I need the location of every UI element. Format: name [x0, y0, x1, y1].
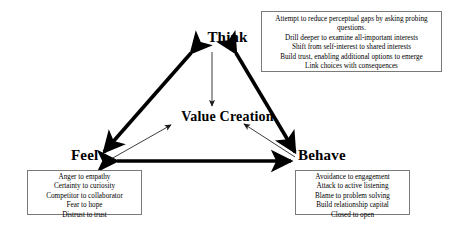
- edge-think-feel: [104, 53, 191, 152]
- callout-box-behave: Avoidance to engagement Attack to active…: [295, 170, 410, 215]
- node-label-behave: Behave: [298, 147, 346, 164]
- callout-line: Drill deeper to examine all-important in…: [266, 34, 437, 43]
- callout-line: Distrust to trust: [32, 211, 137, 220]
- callout-line: Link choices with consequences: [266, 62, 437, 71]
- callout-line: Attack to active listening: [300, 182, 405, 191]
- callout-line: Anger to empathy: [32, 173, 137, 182]
- node-label-value-creation: Value Creation: [0, 108, 455, 125]
- edge-feel-value: [111, 125, 171, 159]
- callout-line: Build trust, enabling additional options…: [266, 53, 437, 62]
- callout-line: Closed to open: [300, 211, 405, 220]
- callout-line: Competitor to collaborator: [32, 192, 137, 201]
- node-label-feel: Feel: [71, 147, 98, 164]
- callout-box-think: Attempt to reduce perceptual gaps by ask…: [261, 11, 442, 72]
- callout-line: Shift from self-interest to shared inter…: [266, 43, 437, 52]
- callout-line: Blame to problem solving: [300, 192, 405, 201]
- callout-line: Avoidance to engagement: [300, 173, 405, 182]
- callout-box-feel: Anger to empathy Certainty to curiosity …: [27, 170, 142, 215]
- diagram-canvas: Think Feel Behave Value Creation Attempt…: [0, 0, 455, 234]
- callout-line: Attempt to reduce perceptual gaps by ask…: [266, 15, 437, 34]
- callout-line: Fear to hope: [32, 201, 137, 210]
- callout-line: Certainty to curiosity: [32, 182, 137, 191]
- callout-line: Build relationship capital: [300, 201, 405, 210]
